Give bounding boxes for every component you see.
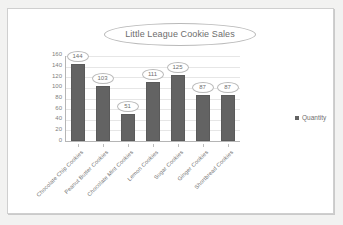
x-axis-category-label: Peanut Butter Cookies <box>63 149 109 195</box>
page-background: Little League Cookie Sales 160 140 120 1… <box>0 0 343 225</box>
y-tick-120: 120 <box>52 73 62 80</box>
bar[interactable] <box>96 86 110 141</box>
chart-title: Little League Cookie Sales <box>104 23 256 46</box>
bar-value-label: 111 <box>142 69 164 80</box>
y-axis-tick-labels: 160 140 120 100 80 60 40 20 0 <box>42 51 62 147</box>
y-tick-160: 160 <box>52 51 62 58</box>
value-label-text: 87 <box>217 82 239 93</box>
bar[interactable] <box>71 64 85 141</box>
y-tick-80: 80 <box>55 94 62 101</box>
x-axis-tick-mark <box>153 144 154 147</box>
bar[interactable] <box>196 95 210 141</box>
x-axis-tick-mark <box>203 144 204 147</box>
value-label-text: 103 <box>92 73 114 84</box>
bar-slot: 111 <box>140 56 165 141</box>
value-label-text: 125 <box>167 62 189 73</box>
x-axis-category-labels: Chocolate Chip CookiesPeanut Butter Cook… <box>65 144 325 214</box>
y-tick-60: 60 <box>55 105 62 112</box>
bar-slot: 87 <box>215 56 240 141</box>
value-label-text: 111 <box>142 69 164 80</box>
chart-legend: Quantity <box>295 114 326 121</box>
bar-value-label: 103 <box>92 73 114 84</box>
bar-series-quantity: 144103511111258787 <box>65 56 240 142</box>
y-tick-0: 0 <box>59 137 62 144</box>
x-axis-tick-mark <box>228 144 229 147</box>
x-axis-tick-mark <box>103 144 104 147</box>
bar[interactable] <box>121 114 135 141</box>
bar-value-label: 87 <box>217 82 239 93</box>
bar[interactable] <box>171 75 185 141</box>
x-axis-tick-mark <box>128 144 129 147</box>
bar[interactable] <box>221 95 235 141</box>
x-axis-tick-mark <box>78 144 79 147</box>
bar[interactable] <box>146 82 160 141</box>
y-tick-20: 20 <box>55 126 62 133</box>
x-axis-category-label: Chocolate Chip Cookies <box>35 149 84 198</box>
value-label-text: 51 <box>117 101 139 112</box>
bar-slot: 103 <box>90 56 115 141</box>
y-tick-140: 140 <box>52 62 62 69</box>
chart-title-container: Little League Cookie Sales <box>104 23 256 46</box>
plot-area: 144103511111258787 <box>65 56 240 142</box>
bar-slot: 125 <box>165 56 190 141</box>
x-axis-tick-mark <box>178 144 179 147</box>
square-marker-icon <box>295 116 299 120</box>
value-label-text: 144 <box>67 51 89 62</box>
x-axis-category-label: Chocolate Mint Cookies <box>86 149 134 197</box>
bar-value-label: 51 <box>117 101 139 112</box>
bar-value-label: 87 <box>192 82 214 93</box>
value-label-text: 87 <box>192 82 214 93</box>
bar-value-label: 144 <box>67 51 89 62</box>
legend-entry-label: Quantity <box>302 114 326 121</box>
bar-slot: 51 <box>115 56 140 141</box>
bar-slot: 144 <box>65 56 90 141</box>
chart-frame: Little League Cookie Sales 160 140 120 1… <box>7 8 334 214</box>
y-tick-100: 100 <box>52 83 62 90</box>
bar-slot: 87 <box>190 56 215 141</box>
y-tick-40: 40 <box>55 115 62 122</box>
bar-value-label: 125 <box>167 62 189 73</box>
